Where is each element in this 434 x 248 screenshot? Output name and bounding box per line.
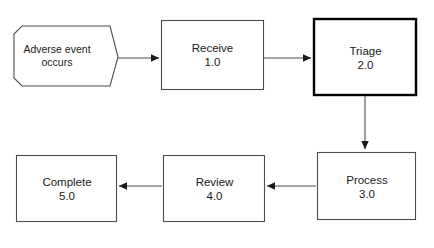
- node-receive[interactable]: [161, 20, 264, 90]
- node-triage[interactable]: [313, 18, 418, 97]
- node-process[interactable]: [317, 152, 417, 221]
- node-terminator[interactable]: [14, 26, 118, 86]
- flowchart-canvas: Adverse event occurs Receive 1.0 Triage …: [0, 0, 434, 248]
- node-complete[interactable]: [16, 155, 118, 223]
- node-review[interactable]: [163, 155, 266, 223]
